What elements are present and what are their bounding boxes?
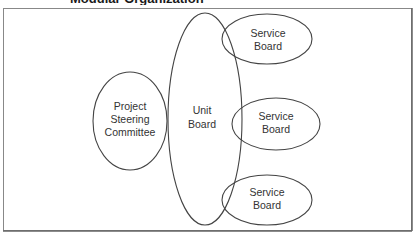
service-board-middle-label-line2: Board: [262, 123, 290, 135]
psc-label-line1: Project: [114, 100, 147, 112]
modular-organization-diagram: Project Steering Committee Unit Board Se…: [0, 0, 415, 234]
service-board-top-label-line1: Service: [250, 27, 285, 39]
node-service-board-top: Service Board: [222, 14, 312, 64]
psc-label-line2: Steering: [110, 113, 149, 125]
service-board-top-ellipse: [222, 14, 312, 64]
unit-board-label-line2: Board: [188, 118, 216, 130]
service-board-bottom-label-line1: Service: [249, 186, 284, 198]
service-board-middle-label-line1: Service: [258, 110, 293, 122]
node-service-board-middle: Service Board: [232, 98, 320, 150]
node-service-board-bottom: Service Board: [222, 175, 312, 225]
service-board-bottom-label-line2: Board: [253, 199, 281, 211]
service-board-top-label-line2: Board: [254, 40, 282, 52]
node-project-steering-committee: Project Steering Committee: [93, 72, 167, 170]
psc-label-line3: Committee: [105, 126, 156, 138]
unit-board-label-line1: Unit: [193, 104, 212, 116]
node-unit-board: Unit Board: [168, 13, 242, 225]
